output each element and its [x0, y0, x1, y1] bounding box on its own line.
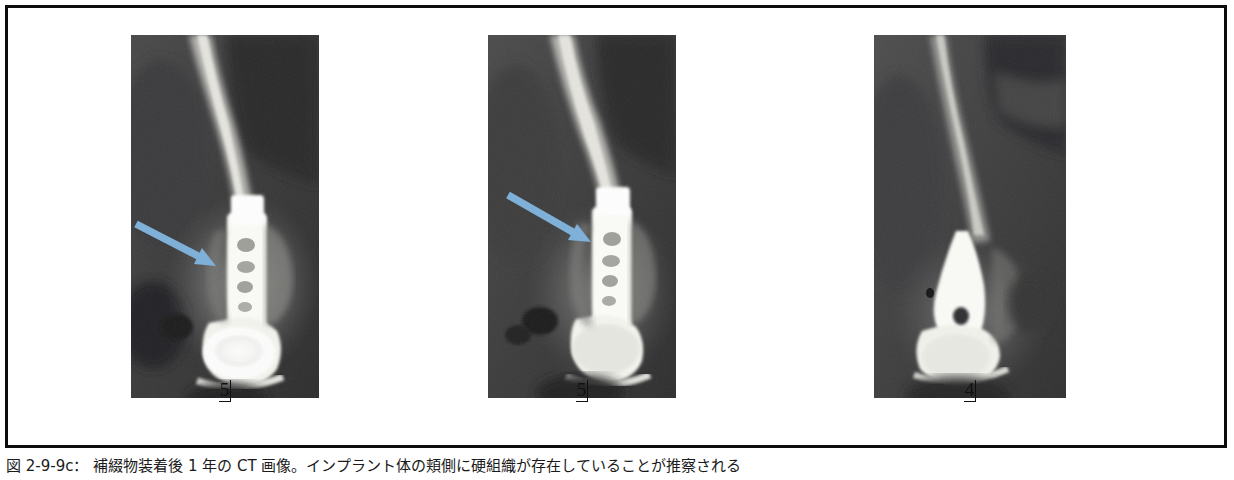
buccal-hard-tissue-arrow-1 [130, 210, 250, 272]
ct-panel-row: 5 5 4 [8, 8, 1224, 445]
figure-caption: 図 2-9-9c： 補綴物装着後 1 年の CT 画像。インプラント体の頬側に硬… [6, 457, 1228, 476]
tooth-number: 5 [219, 380, 232, 402]
tooth-label-panel-2: 5 [488, 380, 676, 410]
tooth-number: 4 [964, 380, 977, 402]
figure-frame: 5 5 4 [5, 5, 1227, 448]
tooth-label-panel-1: 5 [131, 380, 319, 410]
ct-panel-3[interactable] [874, 35, 1066, 398]
ct-panel-1[interactable] [131, 35, 319, 398]
tooth-label-panel-3: 4 [874, 380, 1066, 410]
tooth-number: 5 [576, 380, 589, 402]
buccal-hard-tissue-arrow-2 [502, 183, 632, 249]
ct-panel-2[interactable] [488, 35, 676, 398]
ct-image-3 [874, 35, 1066, 398]
